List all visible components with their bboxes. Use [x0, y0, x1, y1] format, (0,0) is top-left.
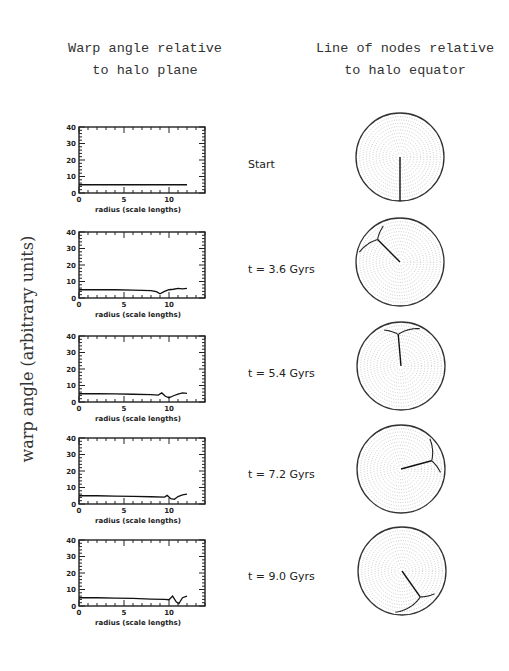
svg-text:10: 10 [164, 507, 174, 515]
svg-text:0: 0 [71, 399, 76, 407]
svg-text:40: 40 [66, 537, 76, 545]
svg-text:radius (scale lengths): radius (scale lengths) [95, 206, 181, 214]
polar-node-diagram-3 [357, 425, 445, 513]
svg-text:20: 20 [66, 157, 76, 165]
svg-text:10: 10 [66, 173, 76, 181]
svg-text:30: 30 [66, 140, 76, 148]
line-chart-2: 0102030400510radius (scale lengths) [66, 333, 205, 424]
svg-text:5: 5 [122, 405, 127, 413]
svg-text:0: 0 [77, 196, 82, 204]
line-chart-4: 0102030400510radius (scale lengths) [66, 537, 205, 628]
line-chart-3: 0102030400510radius (scale lengths) [66, 435, 205, 526]
svg-text:0: 0 [71, 501, 76, 509]
svg-text:0: 0 [71, 190, 76, 198]
polar-node-diagram-0 [356, 113, 444, 201]
svg-text:40: 40 [66, 333, 76, 341]
svg-text:0: 0 [77, 507, 82, 515]
svg-text:10: 10 [164, 301, 174, 309]
svg-text:0: 0 [77, 405, 82, 413]
svg-text:5: 5 [122, 301, 127, 309]
svg-text:0: 0 [71, 603, 76, 611]
svg-text:radius (scale lengths): radius (scale lengths) [95, 517, 181, 525]
svg-text:30: 30 [66, 451, 76, 459]
svg-text:5: 5 [122, 507, 127, 515]
svg-text:0: 0 [71, 295, 76, 303]
svg-text:10: 10 [164, 196, 174, 204]
svg-text:40: 40 [66, 229, 76, 237]
svg-text:40: 40 [66, 435, 76, 443]
svg-text:30: 30 [66, 349, 76, 357]
svg-text:10: 10 [66, 382, 76, 390]
svg-text:20: 20 [66, 262, 76, 270]
svg-text:5: 5 [122, 609, 127, 617]
svg-text:10: 10 [164, 405, 174, 413]
polar-node-diagram-1 [356, 218, 444, 306]
svg-text:20: 20 [66, 570, 76, 578]
svg-text:5: 5 [122, 196, 127, 204]
svg-text:radius (scale lengths): radius (scale lengths) [95, 311, 181, 319]
svg-text:radius (scale lengths): radius (scale lengths) [95, 415, 181, 423]
svg-text:20: 20 [66, 366, 76, 374]
svg-text:10: 10 [66, 278, 76, 286]
svg-text:20: 20 [66, 468, 76, 476]
charts-canvas: 0102030400510radius (scale lengths)01020… [0, 0, 509, 671]
svg-text:10: 10 [66, 586, 76, 594]
svg-text:30: 30 [66, 553, 76, 561]
svg-text:0: 0 [77, 609, 82, 617]
polar-node-diagram-2 [357, 322, 445, 410]
line-chart-0: 0102030400510radius (scale lengths) [66, 124, 205, 215]
svg-text:radius (scale lengths): radius (scale lengths) [95, 619, 181, 627]
polar-node-diagram-4 [358, 527, 446, 615]
svg-text:10: 10 [164, 609, 174, 617]
svg-text:40: 40 [66, 124, 76, 132]
svg-text:30: 30 [66, 245, 76, 253]
svg-text:0: 0 [77, 301, 82, 309]
line-chart-1: 0102030400510radius (scale lengths) [66, 229, 205, 320]
svg-text:10: 10 [66, 484, 76, 492]
